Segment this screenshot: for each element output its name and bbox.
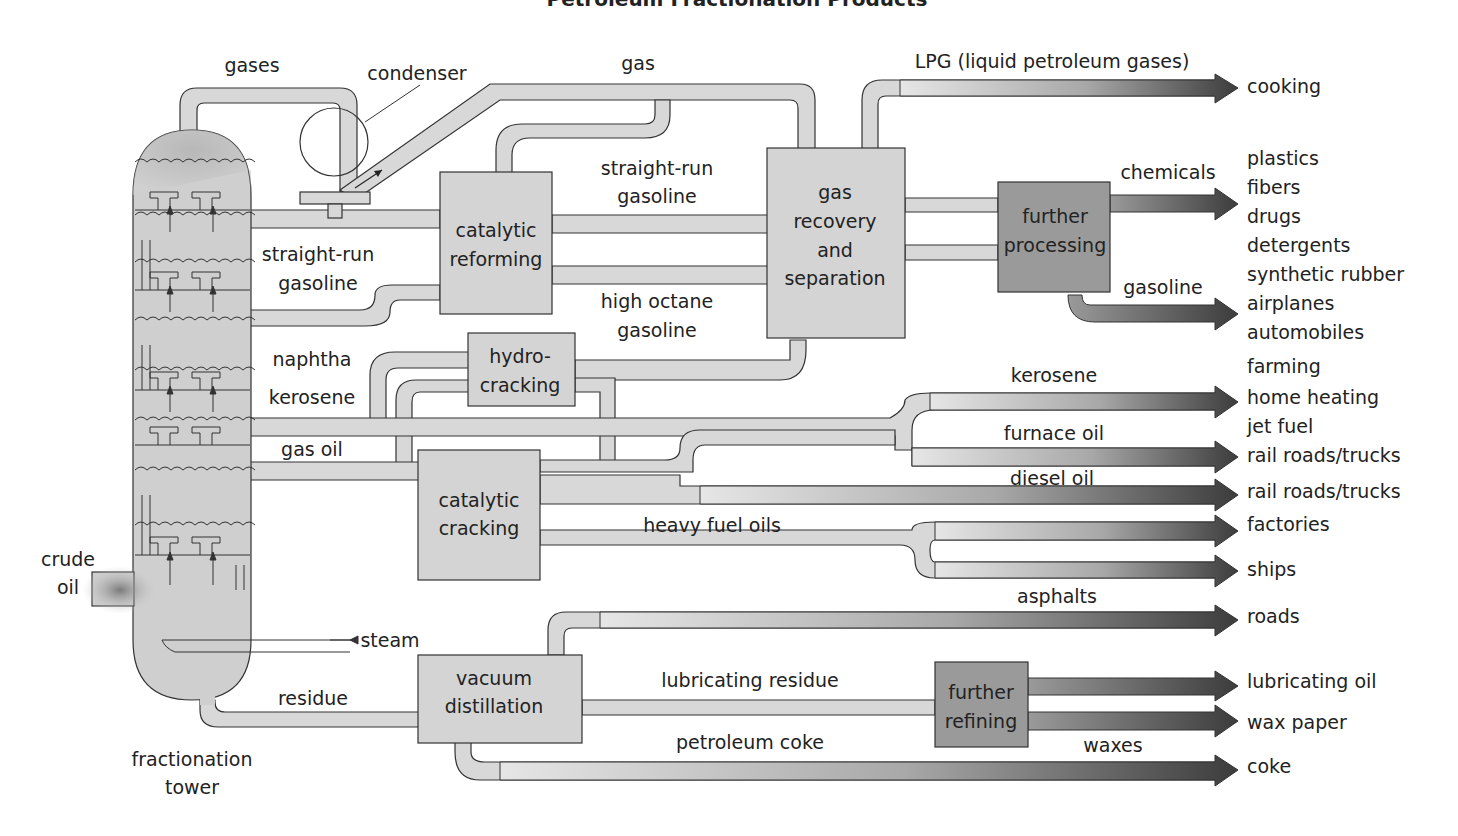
petroleum-fractionation-diagram: Petroleum Fractionation Products: [0, 0, 1458, 836]
label-steam: steam: [360, 629, 419, 651]
label-gas-recovery-1: gas: [818, 181, 852, 203]
end-use-rail-roads-trucks-2: rail roads/trucks: [1247, 480, 1401, 502]
label-gas-recovery-4: separation: [784, 267, 885, 289]
label-further-processing-2: processing: [1004, 234, 1106, 256]
label-asphalts: asphalts: [1017, 585, 1097, 607]
further-refining-box: [935, 662, 1028, 747]
end-use-drugs: drugs: [1247, 205, 1301, 227]
end-use-airplanes: airplanes: [1247, 292, 1334, 314]
label-hog-1: high octane: [601, 290, 713, 312]
label-fractionation: fractionation: [131, 748, 252, 770]
label-gas: gas: [621, 52, 655, 74]
label-waxes: waxes: [1083, 734, 1142, 756]
diagram-title: Petroleum Fractionation Products: [547, 0, 928, 11]
end-use-plastics: plastics: [1247, 147, 1319, 169]
label-gas-recovery-3: and: [817, 239, 853, 261]
end-use-synthetic-rubber: synthetic rubber: [1247, 263, 1404, 285]
label-further-refining-2: refining: [945, 710, 1017, 732]
end-use-ships: ships: [1247, 558, 1296, 580]
label-oil: oil: [57, 576, 79, 598]
label-gases: gases: [224, 54, 279, 76]
label-lubricating-residue: lubricating residue: [661, 669, 839, 691]
end-use-fibers: fibers: [1247, 176, 1300, 198]
label-gasoline: gasoline: [1123, 276, 1203, 298]
end-use-lubricating-oil: lubricating oil: [1247, 670, 1377, 692]
label-srg-1: straight-run: [601, 157, 713, 179]
end-use-jet-fuel: jet fuel: [1246, 415, 1313, 437]
label-further-processing-1: further: [1022, 205, 1088, 227]
label-heavy-fuel-oils: heavy fuel oils: [643, 514, 781, 536]
end-use-automobiles: automobiles: [1247, 321, 1364, 343]
label-hydrocracking-2: cracking: [480, 374, 561, 396]
label-condenser: condenser: [367, 62, 466, 84]
end-use-factories: factories: [1247, 513, 1330, 535]
label-hog-2: gasoline: [617, 319, 697, 341]
label-furnace-oil: furnace oil: [1004, 422, 1104, 444]
label-srg-2: gasoline: [617, 185, 697, 207]
label-vacuum-1: vacuum: [456, 667, 532, 689]
label-gas-oil: gas oil: [281, 438, 343, 460]
label-further-refining-1: further: [948, 681, 1014, 703]
label-cat-cracking-2: cracking: [439, 517, 520, 539]
catalytic-reforming-box: [440, 172, 552, 314]
end-use-rail-roads-trucks-1: rail roads/trucks: [1247, 444, 1401, 466]
label-gas-recovery-2: recovery: [793, 210, 876, 232]
label-kerosene: kerosene: [1011, 364, 1097, 386]
label-tower-srg-1: straight-run: [262, 243, 374, 265]
label-vacuum-2: distillation: [445, 695, 544, 717]
label-tower-kerosene: kerosene: [269, 386, 355, 408]
label-tower-srg-2: gasoline: [278, 272, 358, 294]
end-use-wax-paper: wax paper: [1247, 711, 1347, 733]
end-uses: cooking plastics fibers drugs detergents…: [1246, 75, 1404, 777]
end-use-home-heating: home heating: [1247, 386, 1379, 408]
label-cat-reforming-2: reforming: [450, 248, 543, 270]
label-petroleum-coke: petroleum coke: [676, 731, 824, 753]
label-residue: residue: [278, 687, 348, 709]
end-use-detergents: detergents: [1247, 234, 1351, 256]
end-use-cooking: cooking: [1247, 75, 1321, 97]
label-hydrocracking-1: hydro-: [489, 345, 551, 367]
label-crude: crude: [41, 548, 95, 570]
label-tower: tower: [165, 776, 219, 798]
label-cat-reforming-1: catalytic: [456, 219, 537, 241]
end-use-roads: roads: [1247, 605, 1300, 627]
label-cat-cracking-1: catalytic: [439, 489, 520, 511]
end-use-coke: coke: [1247, 755, 1291, 777]
label-lpg: LPG (liquid petroleum gases): [915, 50, 1190, 72]
end-use-farming: farming: [1247, 355, 1321, 377]
catalytic-cracking-box: [418, 450, 540, 580]
label-diesel-oil: diesel oil: [1010, 467, 1094, 489]
label-chemicals: chemicals: [1120, 161, 1215, 183]
label-naphtha: naphtha: [273, 348, 352, 370]
